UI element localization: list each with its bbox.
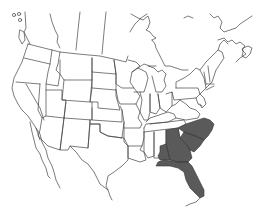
range-florida <box>156 160 204 198</box>
species-range-shading <box>156 118 214 206</box>
north-america-map <box>0 0 262 213</box>
range-map <box>0 0 262 213</box>
